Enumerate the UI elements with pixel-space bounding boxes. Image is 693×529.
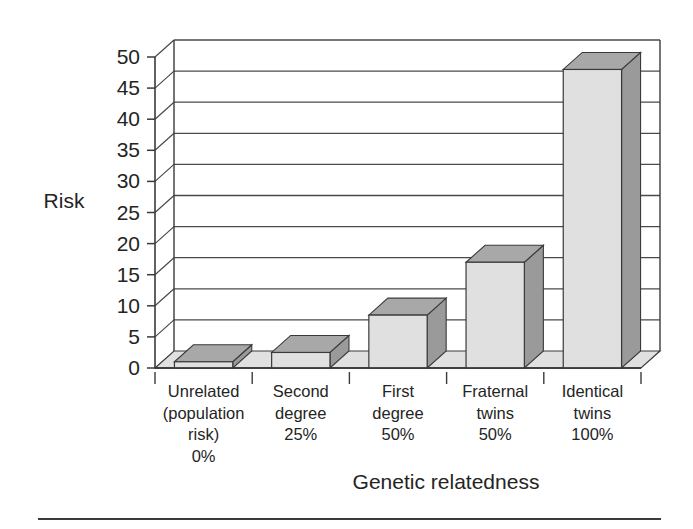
x-tick-label-line: (population — [149, 403, 258, 425]
x-axis-tick-labels: Unrelated(populationrisk)0%Seconddegree2… — [0, 381, 693, 481]
gridline-connector — [155, 227, 174, 244]
x-tick-label-line: 100% — [538, 424, 647, 446]
bar-front-face — [272, 352, 330, 368]
x-tick-label: Firstdegree50% — [343, 381, 452, 446]
x-tick-label-line: 50% — [343, 424, 452, 446]
x-tick-label-line: 25% — [246, 424, 355, 446]
bar-front-face — [174, 362, 232, 368]
x-tick-label: Seconddegree25% — [246, 381, 355, 446]
gridline-connector — [155, 289, 174, 306]
x-tick-label-line: degree — [246, 403, 355, 425]
x-tick-label-line: Second — [246, 381, 355, 403]
x-axis-title: Genetic relatedness — [286, 470, 606, 494]
gridline-connector — [155, 164, 174, 181]
x-tick-label-line: First — [343, 381, 452, 403]
gridline-connector — [155, 196, 174, 213]
x-tick-label-line: Unrelated — [149, 381, 258, 403]
bar-front-face — [369, 315, 427, 368]
x-tick-label-line: 50% — [441, 424, 550, 446]
chart-figure: Risk 05101520253035404550 Unrelated(popu… — [0, 0, 693, 529]
bar-side-face — [524, 245, 543, 368]
x-tick-label: Fraternaltwins50% — [441, 381, 550, 446]
x-tick-label: Identicaltwins100% — [538, 381, 647, 446]
gridline-connector — [155, 40, 174, 57]
gridline-connector — [155, 102, 174, 119]
x-tick-label-line: degree — [343, 403, 452, 425]
x-tick-label: Unrelated(populationrisk)0% — [149, 381, 258, 467]
x-tick-label-line: 0% — [149, 446, 258, 468]
bar[interactable] — [466, 245, 543, 368]
bar[interactable] — [563, 52, 640, 368]
bar-front-face — [563, 69, 621, 368]
gridline-connector — [155, 320, 174, 337]
x-tick-label-line: risk) — [149, 424, 258, 446]
x-tick-label-line: Identical — [538, 381, 647, 403]
bar-front-face — [466, 262, 524, 368]
gridline-connector — [155, 258, 174, 275]
gridline-connector — [155, 71, 174, 88]
x-tick-label-line: twins — [538, 403, 647, 425]
gridline-connector — [155, 133, 174, 150]
bar-side-face — [622, 52, 641, 368]
x-tick-label-line: Fraternal — [441, 381, 550, 403]
x-tick-label-line: twins — [441, 403, 550, 425]
bottom-divider — [38, 518, 661, 520]
bar[interactable] — [369, 298, 446, 368]
